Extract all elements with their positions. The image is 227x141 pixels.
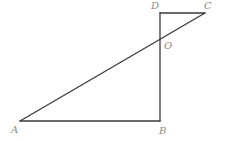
label-d: D (150, 0, 159, 11)
label-c: C (204, 0, 212, 11)
label-a: A (10, 124, 18, 135)
label-o: O (164, 40, 172, 51)
segment-ac (20, 13, 205, 121)
geometry-figure: D C O A B (0, 0, 227, 141)
label-b: B (158, 125, 166, 136)
